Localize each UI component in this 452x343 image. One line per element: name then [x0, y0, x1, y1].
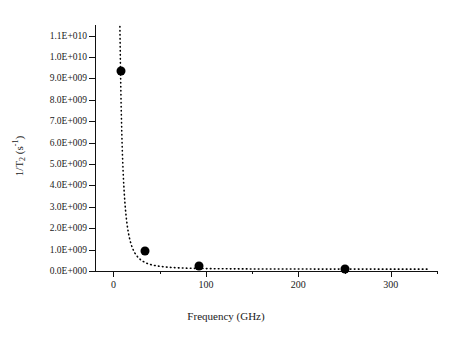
y-tick-label: 0.0E+000 — [50, 266, 87, 276]
y-tick-mark — [89, 100, 95, 101]
data-point — [116, 66, 125, 75]
y-axis-title-subscript: 2 — [18, 157, 27, 161]
data-point — [340, 264, 349, 273]
chart-container: 0.0E+0001.0E+0092.0E+0093.0E+0094.0E+009… — [0, 0, 452, 343]
y-axis-title-prefix: 1/T — [13, 161, 25, 176]
y-tick-mark — [89, 185, 95, 186]
y-tick-label: 1.0E+010 — [50, 52, 87, 62]
y-axis-title-suffix: ) — [13, 136, 25, 140]
x-tick-label: 200 — [291, 279, 306, 290]
x-tick-mark — [113, 271, 114, 277]
y-tick-mark — [89, 207, 95, 208]
x-minor-tick-mark — [160, 271, 161, 274]
y-tick-label: 6.0E+009 — [50, 138, 87, 148]
y-tick-mark — [89, 271, 95, 272]
fit-curve-path — [120, 26, 430, 269]
x-minor-tick-mark — [252, 271, 253, 274]
y-axis-title-superscript: -1 — [11, 140, 20, 147]
y-tick-mark — [89, 36, 95, 37]
y-tick-label: 2.0E+009 — [50, 223, 87, 233]
x-tick-mark — [298, 271, 299, 277]
plot-area — [95, 25, 437, 270]
x-tick-mark — [206, 271, 207, 277]
y-tick-mark — [89, 228, 95, 229]
y-axis-title-mid: (s — [13, 146, 25, 157]
y-tick-label: 9.0E+009 — [50, 73, 87, 83]
y-tick-mark — [89, 164, 95, 165]
y-tick-label: 8.0E+009 — [50, 95, 87, 105]
x-tick-label: 300 — [383, 279, 398, 290]
y-tick-mark — [89, 78, 95, 79]
x-axis-title: Frequency (GHz) — [0, 310, 452, 322]
x-tick-label: 0 — [111, 279, 116, 290]
data-point — [194, 262, 203, 271]
x-tick-mark — [391, 271, 392, 277]
y-tick-label: 4.0E+009 — [50, 180, 87, 190]
x-minor-tick-mark — [437, 271, 438, 274]
y-axis-title: 1/T2 (s-1) — [11, 101, 27, 211]
y-tick-mark — [89, 57, 95, 58]
y-tick-label: 3.0E+009 — [50, 202, 87, 212]
y-tick-label: 1.1E+010 — [50, 31, 87, 41]
y-tick-label: 5.0E+009 — [50, 159, 87, 169]
y-tick-label: 1.0E+009 — [50, 245, 87, 255]
data-point — [140, 247, 149, 256]
y-tick-mark — [89, 121, 95, 122]
y-tick-mark — [89, 250, 95, 251]
y-tick-label: 7.0E+009 — [50, 116, 87, 126]
x-tick-label: 100 — [198, 279, 213, 290]
y-tick-mark — [89, 143, 95, 144]
